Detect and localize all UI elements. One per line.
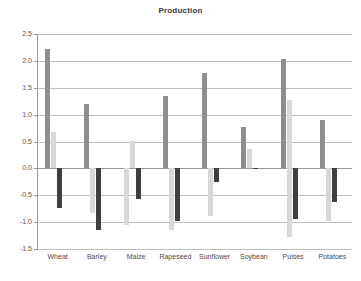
bar xyxy=(84,104,89,168)
bar-group xyxy=(77,34,116,249)
bar xyxy=(253,168,258,169)
bar xyxy=(163,96,168,168)
bar-group xyxy=(195,34,234,249)
bar xyxy=(136,168,141,199)
bar-group xyxy=(274,34,313,249)
bar xyxy=(45,49,50,168)
y-tick-label: -1.0 xyxy=(2,218,32,225)
bar xyxy=(247,149,252,168)
bar-group xyxy=(234,34,273,249)
bar xyxy=(51,132,56,169)
y-tick-label: 1.0 xyxy=(2,111,32,118)
plot-area xyxy=(38,34,352,249)
x-tick-label: Potatoes xyxy=(308,253,357,260)
bar xyxy=(214,168,219,181)
bar-group xyxy=(313,34,352,249)
bar xyxy=(293,168,298,219)
y-tick-label: 2.5 xyxy=(2,30,32,37)
y-tick-label: -0.5 xyxy=(2,191,32,198)
bar xyxy=(208,168,213,215)
bar xyxy=(57,168,62,207)
bar-group xyxy=(38,34,77,249)
bar xyxy=(130,141,135,168)
bar xyxy=(124,168,129,224)
bar xyxy=(281,59,286,168)
bar xyxy=(175,168,180,220)
production-bar-chart: Production 2.52.01.51.00.50.0-0.5-1.0-1.… xyxy=(0,0,361,281)
y-tick-mark xyxy=(34,249,38,250)
y-tick-label: 0.5 xyxy=(2,138,32,145)
bar xyxy=(90,168,95,213)
bar xyxy=(96,168,101,230)
bar-group xyxy=(156,34,195,249)
bar xyxy=(320,120,325,168)
y-tick-label: 2.0 xyxy=(2,57,32,64)
y-tick-label: 0.0 xyxy=(2,164,32,171)
bar xyxy=(332,168,337,202)
bar-group xyxy=(117,34,156,249)
y-tick-label: 1.5 xyxy=(2,84,32,91)
bar xyxy=(169,168,174,230)
bar xyxy=(287,168,292,236)
bar xyxy=(241,127,246,168)
bar xyxy=(326,168,331,220)
bar xyxy=(202,73,207,169)
y-tick-label: -1.5 xyxy=(2,245,32,252)
bar xyxy=(287,100,292,169)
gridline xyxy=(38,249,352,250)
chart-title: Production xyxy=(0,6,361,15)
